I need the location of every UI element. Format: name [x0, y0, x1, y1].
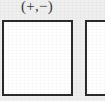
- sign-label-plus-minus: (+,−): [0, 0, 74, 15]
- panel-box-left: [2, 20, 73, 96]
- figure-fragment: (+,−): [0, 0, 105, 101]
- panel-box-right: [85, 20, 105, 96]
